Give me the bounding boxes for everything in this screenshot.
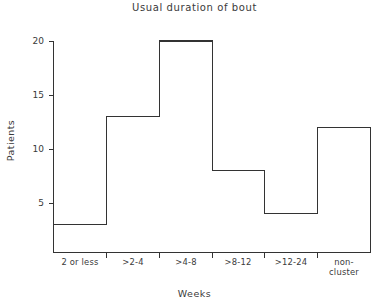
x-tick-label-1: >2-4 [108,258,158,268]
x-tick-label-5: non- cluster [319,258,369,277]
x-tick-label-0: 2 or less [55,258,105,268]
x-tick-label-2: >4-8 [161,258,211,268]
x-tick-label-5-line1: non- [334,257,354,267]
x-tick-label-5-line2: cluster [329,267,359,277]
x-axis-label: Weeks [0,288,389,299]
chart-container: Usual duration of bout Patients 20 15 10… [0,0,389,308]
histogram-step-outline [54,41,371,253]
x-tick-label-4: >12-24 [266,258,316,268]
x-tick-label-3: >8-12 [213,258,263,268]
